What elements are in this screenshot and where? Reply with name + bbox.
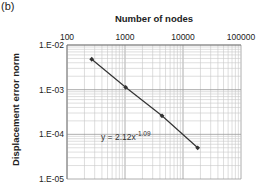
x-tick-label: 1000 — [116, 32, 135, 42]
chart-plot: 1001000100001000001.E-021.E-031.E-041.E-… — [0, 0, 257, 191]
fit-equation: y = 2.12x-1.09 — [101, 130, 151, 142]
y-tick-label: 1.E-03 — [39, 85, 64, 95]
x-tick-label: 100000 — [227, 32, 256, 42]
y-tick-label: 1.E-02 — [39, 40, 64, 50]
x-tick-label: 10000 — [171, 32, 195, 42]
y-tick-label: 1.E-05 — [39, 174, 64, 184]
y-tick-label: 1.E-04 — [39, 129, 64, 139]
